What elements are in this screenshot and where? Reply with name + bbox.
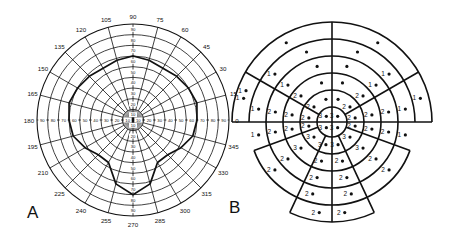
svg-text:2: 2 bbox=[284, 125, 288, 132]
svg-text:2: 2 bbox=[280, 155, 284, 162]
svg-text:2: 2 bbox=[314, 157, 318, 164]
svg-text:20: 20 bbox=[131, 134, 136, 139]
svg-text:1: 1 bbox=[236, 94, 240, 101]
svg-text:30: 30 bbox=[131, 144, 136, 149]
svg-text:2: 2 bbox=[335, 157, 339, 164]
svg-text:3: 3 bbox=[330, 141, 334, 148]
svg-text:2: 2 bbox=[337, 209, 341, 216]
svg-text:300: 300 bbox=[180, 207, 191, 214]
svg-text:70: 70 bbox=[131, 48, 136, 53]
svg-text:50: 50 bbox=[179, 118, 184, 123]
svg-text:150: 150 bbox=[38, 65, 49, 72]
svg-text:195: 195 bbox=[27, 143, 38, 150]
svg-text:2: 2 bbox=[381, 166, 385, 173]
svg-text:2: 2 bbox=[342, 103, 346, 110]
svg-text:1: 1 bbox=[368, 81, 372, 88]
svg-text:180: 180 bbox=[24, 117, 35, 124]
svg-text:60: 60 bbox=[182, 26, 189, 33]
svg-text:40: 40 bbox=[131, 155, 136, 160]
svg-text:80: 80 bbox=[131, 38, 136, 43]
svg-text:255: 255 bbox=[101, 217, 112, 224]
svg-text:60: 60 bbox=[189, 118, 194, 123]
panel-b-label: B bbox=[229, 198, 240, 218]
svg-text:40: 40 bbox=[168, 118, 173, 123]
svg-text:3: 3 bbox=[319, 124, 323, 131]
svg-text:40: 40 bbox=[131, 80, 136, 85]
svg-text:10: 10 bbox=[136, 118, 141, 123]
svg-text:2: 2 bbox=[268, 128, 272, 135]
svg-text:2: 2 bbox=[339, 174, 343, 181]
svg-text:50: 50 bbox=[131, 70, 136, 75]
svg-text:90: 90 bbox=[40, 118, 45, 123]
svg-text:80: 80 bbox=[51, 118, 56, 123]
svg-text:2: 2 bbox=[364, 111, 368, 118]
svg-text:70: 70 bbox=[61, 118, 66, 123]
svg-text:2: 2 bbox=[381, 128, 385, 135]
svg-text:50: 50 bbox=[131, 166, 136, 171]
svg-text:2: 2 bbox=[368, 155, 372, 162]
svg-text:210: 210 bbox=[38, 169, 49, 176]
svg-text:1: 1 bbox=[398, 105, 402, 112]
svg-text:45: 45 bbox=[203, 43, 210, 50]
svg-text:3: 3 bbox=[319, 112, 323, 119]
svg-text:20: 20 bbox=[115, 118, 120, 123]
svg-text:10: 10 bbox=[131, 112, 136, 117]
svg-text:2: 2 bbox=[347, 114, 351, 121]
panel-b-grid bbox=[232, 22, 432, 222]
svg-text:270: 270 bbox=[128, 221, 139, 228]
panel-a-label: A bbox=[27, 203, 38, 223]
svg-text:20: 20 bbox=[131, 102, 136, 107]
svg-text:90: 90 bbox=[221, 118, 226, 123]
svg-text:60: 60 bbox=[72, 118, 77, 123]
svg-text:90: 90 bbox=[130, 13, 137, 20]
svg-text:2: 2 bbox=[267, 166, 271, 173]
svg-text:80: 80 bbox=[211, 118, 216, 123]
svg-text:1: 1 bbox=[280, 81, 284, 88]
svg-text:2: 2 bbox=[305, 190, 309, 197]
svg-text:1: 1 bbox=[267, 70, 271, 77]
svg-text:2: 2 bbox=[355, 92, 359, 99]
svg-text:30: 30 bbox=[220, 65, 227, 72]
svg-text:120: 120 bbox=[76, 26, 87, 33]
svg-text:3: 3 bbox=[293, 144, 297, 151]
svg-text:90: 90 bbox=[131, 208, 136, 213]
svg-text:2: 2 bbox=[311, 209, 315, 216]
svg-text:330: 330 bbox=[218, 169, 229, 176]
svg-text:1: 1 bbox=[251, 131, 255, 138]
svg-text:3: 3 bbox=[330, 124, 334, 131]
svg-text:50: 50 bbox=[83, 118, 88, 123]
svg-text:2: 2 bbox=[301, 114, 305, 121]
svg-text:3: 3 bbox=[355, 144, 359, 151]
svg-text:2: 2 bbox=[381, 108, 385, 115]
svg-text:3: 3 bbox=[330, 112, 334, 119]
svg-text:90: 90 bbox=[131, 27, 136, 32]
svg-text:20: 20 bbox=[147, 118, 152, 123]
svg-text:40: 40 bbox=[93, 118, 98, 123]
svg-text:2: 2 bbox=[306, 103, 310, 110]
svg-text:3: 3 bbox=[342, 133, 346, 140]
svg-text:2: 2 bbox=[309, 174, 313, 181]
svg-text:315: 315 bbox=[201, 190, 212, 197]
svg-text:1: 1 bbox=[251, 105, 255, 112]
svg-text:2: 2 bbox=[293, 92, 297, 99]
svg-text:1: 1 bbox=[381, 70, 385, 77]
svg-text:30: 30 bbox=[131, 91, 136, 96]
svg-text:75: 75 bbox=[156, 16, 163, 23]
svg-text:2: 2 bbox=[343, 190, 347, 197]
svg-text:2: 2 bbox=[347, 122, 351, 129]
svg-text:285: 285 bbox=[155, 217, 166, 224]
svg-text:30: 30 bbox=[104, 118, 109, 123]
svg-text:2: 2 bbox=[284, 111, 288, 118]
svg-text:240: 240 bbox=[76, 207, 87, 214]
svg-text:1: 1 bbox=[398, 131, 402, 138]
panel-a-polar-chart: 0153045607590105120135150165180195210225… bbox=[0, 0, 452, 242]
svg-text:2: 2 bbox=[301, 122, 305, 129]
svg-text:1: 1 bbox=[238, 87, 242, 94]
svg-text:70: 70 bbox=[131, 187, 136, 192]
svg-text:105: 105 bbox=[101, 16, 112, 23]
svg-text:3: 3 bbox=[318, 141, 322, 148]
svg-text:10: 10 bbox=[125, 118, 130, 123]
svg-text:60: 60 bbox=[131, 176, 136, 181]
svg-text:345: 345 bbox=[228, 143, 239, 150]
svg-text:3: 3 bbox=[306, 133, 310, 140]
